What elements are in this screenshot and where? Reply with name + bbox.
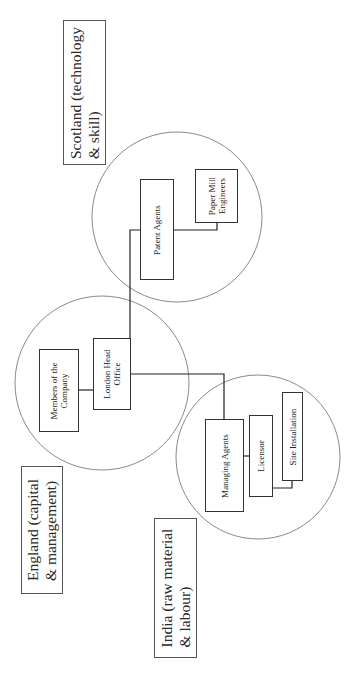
node-london-head-office: London Head Office bbox=[93, 338, 131, 410]
node-patent-agents: Patent Agents bbox=[140, 179, 174, 280]
england-label-box: England (capital & management) bbox=[21, 466, 63, 594]
scotland-label-box: Scotland (technology & skill) bbox=[63, 20, 106, 165]
node-members-of-company: Members of the Company bbox=[39, 349, 79, 432]
india-label: India (raw material & labour) bbox=[158, 529, 194, 648]
india-label-box: India (raw material & labour) bbox=[154, 518, 197, 658]
connector-patent-agents-to-engineers bbox=[173, 223, 217, 230]
connector-london-to-managing-agents bbox=[130, 374, 224, 419]
england-label: England (capital & management) bbox=[24, 479, 60, 581]
node-licensor: Licensor bbox=[249, 415, 273, 497]
connector-licensor-to-site-installation bbox=[273, 481, 292, 488]
scotland-label: Scotland (technology & skill) bbox=[67, 26, 103, 158]
node-paper-mill-engineers: Paper Mill Engineers bbox=[195, 169, 238, 223]
node-site-installation: Site Installation bbox=[282, 392, 303, 481]
node-managing-agents: Managing Agents bbox=[205, 419, 244, 512]
connector-london-to-patent-agents bbox=[130, 230, 140, 338]
